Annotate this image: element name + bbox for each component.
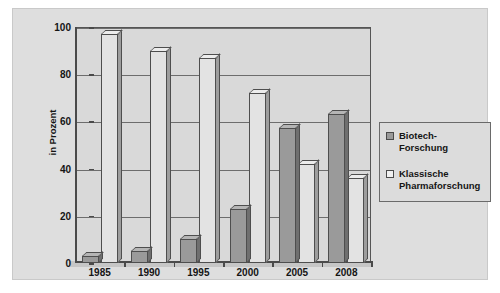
bar-1985-series1 bbox=[82, 256, 99, 263]
bar-1990-series1 bbox=[131, 251, 148, 263]
legend-entry-klassische: Klassische Pharmaforschung bbox=[386, 168, 484, 192]
x-tick-label: 2000 bbox=[237, 267, 259, 278]
legend-label-klassische: Klassische Pharmaforschung bbox=[399, 168, 484, 192]
bar-face bbox=[180, 239, 197, 263]
y-tick-label: 20 bbox=[60, 210, 71, 221]
bar-face bbox=[328, 114, 345, 263]
bar-side bbox=[296, 124, 300, 263]
x-tick-label: 2008 bbox=[335, 267, 357, 278]
y-tick-label: 40 bbox=[60, 163, 71, 174]
chart-panel: in Prozent 020406080100 1985199019952000… bbox=[12, 8, 488, 280]
y-tick-label: 0 bbox=[65, 258, 71, 269]
bar-face bbox=[131, 251, 148, 263]
bars-layer bbox=[75, 27, 371, 263]
bar-face bbox=[230, 209, 247, 263]
bar-side bbox=[345, 110, 349, 263]
bar-2008-series2 bbox=[347, 178, 364, 263]
legend-label-biotech: Biotech-Forschung bbox=[399, 130, 484, 154]
x-tick-mark bbox=[371, 263, 373, 267]
bar-face bbox=[347, 178, 364, 263]
x-tick-label: 1995 bbox=[187, 267, 209, 278]
bar-side bbox=[247, 204, 251, 263]
x-tick-label: 1985 bbox=[89, 267, 111, 278]
bar-face bbox=[249, 93, 266, 263]
y-tick-mark bbox=[89, 263, 94, 265]
bar-2000-series2 bbox=[249, 93, 266, 263]
bar-2008-series1 bbox=[328, 114, 345, 263]
bar-1995-series2 bbox=[199, 58, 216, 263]
x-tick-label: 1990 bbox=[138, 267, 160, 278]
bar-side bbox=[118, 29, 122, 263]
bar-1995-series1 bbox=[180, 239, 197, 263]
y-tick-label: 100 bbox=[54, 22, 71, 33]
bar-1985-series2 bbox=[101, 34, 118, 263]
bar-2005-series1 bbox=[279, 128, 296, 263]
bar-side bbox=[315, 159, 319, 263]
bar-side bbox=[167, 46, 171, 263]
bar-face bbox=[298, 164, 315, 263]
dark-grey-swatch-icon bbox=[386, 132, 394, 140]
y-axis-ticks: 020406080100 bbox=[31, 27, 71, 263]
bar-face bbox=[279, 128, 296, 263]
x-tick-label: 2005 bbox=[286, 267, 308, 278]
bar-face bbox=[150, 51, 167, 263]
bar-side bbox=[216, 53, 220, 263]
y-tick-label: 80 bbox=[60, 69, 71, 80]
chart-legend: Biotech-Forschung Klassische Pharmaforsc… bbox=[379, 122, 491, 202]
bar-side bbox=[364, 173, 368, 263]
bar-face bbox=[101, 34, 118, 263]
white-swatch-icon bbox=[386, 170, 394, 178]
bar-face bbox=[199, 58, 216, 263]
bar-side bbox=[266, 88, 270, 263]
legend-entry-biotech: Biotech-Forschung bbox=[386, 130, 484, 154]
y-tick-label: 60 bbox=[60, 116, 71, 127]
bar-2000-series1 bbox=[230, 209, 247, 263]
bar-2005-series2 bbox=[298, 164, 315, 263]
bar-face bbox=[82, 256, 99, 263]
bar-1990-series2 bbox=[150, 51, 167, 263]
chart-screenshot: in Prozent 020406080100 1985199019952000… bbox=[0, 0, 500, 293]
